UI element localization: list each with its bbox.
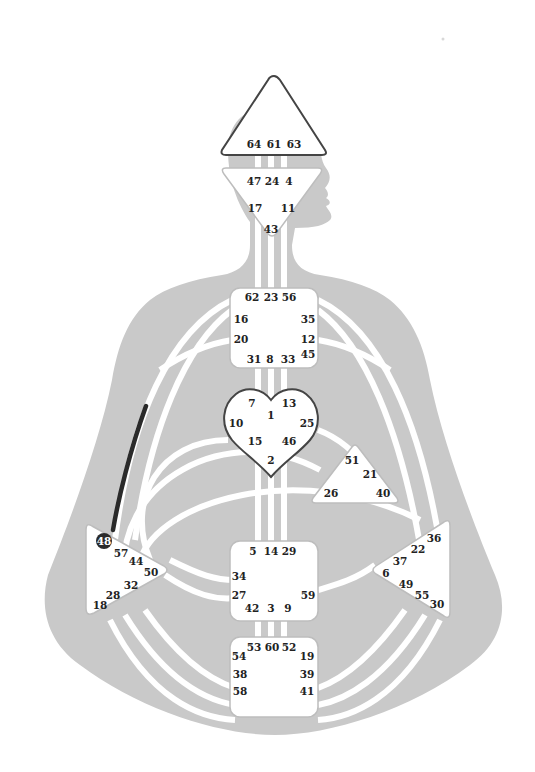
gate-61[interactable]: 61	[267, 138, 282, 150]
gate-35[interactable]: 35	[301, 313, 316, 325]
gate-16[interactable]: 16	[234, 313, 249, 325]
gate-19[interactable]: 19	[300, 650, 315, 662]
gate-47[interactable]: 47	[247, 175, 262, 187]
gate-62[interactable]: 62	[245, 291, 260, 303]
gate-30[interactable]: 30	[430, 598, 445, 610]
gate-32[interactable]: 32	[124, 579, 139, 591]
gate-1[interactable]: 1	[267, 409, 274, 421]
gate-27[interactable]: 27	[232, 589, 247, 601]
gate-55[interactable]: 55	[415, 589, 430, 601]
gate-25[interactable]: 25	[300, 417, 315, 429]
gate-10[interactable]: 10	[229, 417, 244, 429]
bodygraph-diagram: 64 61 63 47 24 4 17 11 43 62 23 56 16 35…	[0, 0, 535, 772]
gate-21[interactable]: 21	[363, 468, 378, 480]
gate-57[interactable]: 57	[114, 547, 129, 559]
gate-52[interactable]: 52	[282, 641, 297, 653]
gate-8[interactable]: 8	[266, 353, 273, 365]
gate-46[interactable]: 46	[282, 435, 297, 447]
gate-56[interactable]: 56	[282, 291, 297, 303]
gate-12[interactable]: 12	[301, 333, 316, 345]
gate-24[interactable]: 24	[265, 175, 280, 187]
gate-5[interactable]: 5	[249, 545, 256, 557]
gate-28[interactable]: 28	[106, 589, 121, 601]
gate-7[interactable]: 7	[248, 397, 255, 409]
gate-11[interactable]: 11	[281, 202, 296, 214]
gate-23[interactable]: 23	[264, 291, 279, 303]
gate-58[interactable]: 58	[233, 685, 248, 697]
gate-33[interactable]: 33	[281, 353, 296, 365]
gate-44[interactable]: 44	[129, 555, 144, 567]
gate-41[interactable]: 41	[300, 685, 315, 697]
gate-18[interactable]: 18	[93, 599, 108, 611]
gate-13[interactable]: 13	[282, 397, 297, 409]
gate-15[interactable]: 15	[248, 435, 263, 447]
gate-59[interactable]: 59	[301, 589, 316, 601]
gate-36[interactable]: 36	[427, 532, 442, 544]
gate-17[interactable]: 17	[248, 202, 263, 214]
gate-4[interactable]: 4	[285, 175, 292, 187]
gate-22[interactable]: 22	[411, 543, 426, 555]
image-artifact	[442, 38, 445, 41]
gate-50[interactable]: 50	[144, 566, 159, 578]
gate-53[interactable]: 53	[247, 641, 262, 653]
gate-40[interactable]: 40	[376, 487, 391, 499]
gate-43[interactable]: 43	[264, 223, 279, 235]
gate-37[interactable]: 37	[393, 555, 408, 567]
gate-31[interactable]: 31	[247, 353, 262, 365]
gate-51[interactable]: 51	[345, 454, 360, 466]
gate-14[interactable]: 14	[264, 545, 279, 557]
gate-3[interactable]: 3	[267, 602, 274, 614]
gate-26[interactable]: 26	[324, 487, 339, 499]
gate-63[interactable]: 63	[287, 138, 302, 150]
gate-54[interactable]: 54	[232, 650, 247, 662]
center-throat[interactable]: 62 23 56 16 35 20 12 45 31 8 33	[230, 288, 318, 368]
gate-9[interactable]: 9	[284, 602, 291, 614]
center-root[interactable]: 53 60 52 54 19 38 39 58 41	[230, 637, 318, 717]
gate-34[interactable]: 34	[232, 570, 247, 582]
gate-6[interactable]: 6	[382, 567, 389, 579]
gate-38[interactable]: 38	[233, 668, 248, 680]
gate-29[interactable]: 29	[282, 545, 297, 557]
center-head[interactable]: 64 61 63	[222, 76, 327, 155]
gate-48[interactable]: 48	[97, 535, 112, 547]
gate-42[interactable]: 42	[245, 602, 260, 614]
gate-39[interactable]: 39	[300, 668, 315, 680]
gate-2[interactable]: 2	[267, 454, 274, 466]
gate-45[interactable]: 45	[301, 348, 316, 360]
gate-64[interactable]: 64	[247, 138, 262, 150]
center-sacral[interactable]: 5 14 29 34 27 59 42 3 9	[230, 541, 318, 621]
gate-20[interactable]: 20	[234, 333, 249, 345]
gate-60[interactable]: 60	[265, 641, 280, 653]
gate-49[interactable]: 49	[399, 578, 414, 590]
